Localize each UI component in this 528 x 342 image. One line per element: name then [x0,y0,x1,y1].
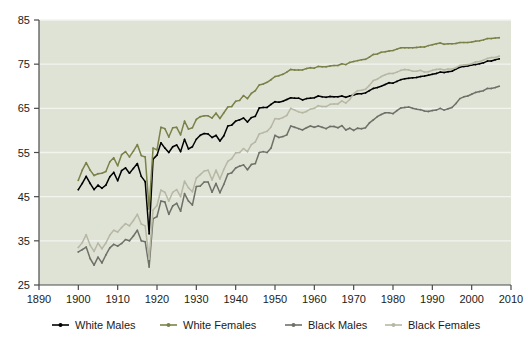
y-axis-tick-label: 65 [18,102,30,114]
x-axis-tick-label: 1980 [381,293,405,305]
y-axis-tick-label: 55 [18,147,30,159]
legend-item-label: Black Males [308,319,368,331]
legend-marker-icon [167,323,171,327]
x-axis-tick-label: 1950 [263,293,287,305]
x-axis-tick-label: 1990 [420,293,444,305]
legend-marker-icon [59,323,63,327]
x-axis-tick-label: 1960 [302,293,326,305]
legend-item-label: Black Females [408,319,481,331]
y-axis-tick-label: 25 [18,279,30,291]
x-axis-tick-label: 1970 [341,293,365,305]
x-axis-tick-label: 1900 [66,293,90,305]
y-axis-tick-label: 45 [18,191,30,203]
x-axis-tick-label: 2000 [459,293,483,305]
x-axis-tick-label: 2010 [499,293,523,305]
x-axis-tick-label: 1930 [184,293,208,305]
life-expectancy-chart: 25354555657585 1890190019101920193019401… [0,0,528,342]
legend-item-label: White Males [75,319,136,331]
x-axis-tick-label: 1910 [105,293,129,305]
legend-item-label: White Females [183,319,257,331]
x-axis-tick-label: 1890 [27,293,51,305]
x-axis-tick-label: 1940 [223,293,247,305]
y-axis-tick-label: 35 [18,235,30,247]
legend-marker-icon [392,323,396,327]
y-axis-tick-label: 85 [18,14,30,26]
y-axis-tick-label: 75 [18,58,30,70]
legend-marker-icon [292,323,296,327]
x-axis-tick-label: 1920 [145,293,169,305]
chart-canvas: 25354555657585 1890190019101920193019401… [0,0,528,342]
